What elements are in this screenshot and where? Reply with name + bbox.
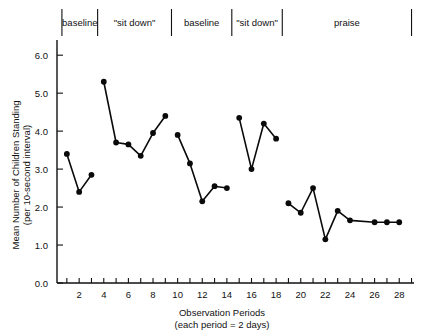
data-point <box>125 142 131 148</box>
data-point <box>138 153 144 159</box>
data-point <box>249 166 255 172</box>
data-point <box>322 236 328 242</box>
x-tick-label: 16 <box>246 289 257 300</box>
y-tick-label: 3.0 <box>35 164 48 175</box>
y-tick-label: 5.0 <box>35 88 48 99</box>
x-tick-label: 2 <box>77 289 82 300</box>
x-axis-subtitle: (each period = 2 days) <box>175 319 270 330</box>
series-points <box>64 79 402 242</box>
data-point <box>199 198 205 204</box>
chart-figure: Mean Number of Children Standing (per 10… <box>0 0 428 335</box>
x-tick-label: 12 <box>197 289 208 300</box>
x-tick-label: 4 <box>101 289 106 300</box>
data-point <box>89 172 95 178</box>
data-point <box>286 200 292 206</box>
data-point <box>187 161 193 167</box>
x-tick-label: 28 <box>394 289 405 300</box>
y-tick-label: 6.0 <box>35 50 48 61</box>
data-point <box>273 136 279 142</box>
x-tick-label: 26 <box>369 289 380 300</box>
x-tick-label: 10 <box>172 289 183 300</box>
x-tick-label: 22 <box>320 289 331 300</box>
y-tick-label: 1.0 <box>35 240 48 251</box>
y-axis-title-group: Mean Number of Children Standing (per 10… <box>10 101 32 250</box>
phase-labels: baseline"sit down"baseline"sit down"prai… <box>62 17 360 28</box>
data-point <box>298 210 304 216</box>
data-point <box>101 79 107 85</box>
x-tick-label: 14 <box>222 289 233 300</box>
x-axis-ticks <box>67 278 412 283</box>
data-point <box>175 132 181 138</box>
data-point <box>396 219 402 225</box>
data-point <box>212 183 218 189</box>
x-axis-tick-labels: 246810121416182022242628 <box>77 289 405 300</box>
x-tick-label: 20 <box>295 289 306 300</box>
x-tick-label: 8 <box>150 289 155 300</box>
series-line <box>104 82 166 156</box>
phase-label: baseline <box>62 17 97 28</box>
data-point <box>113 140 119 146</box>
data-point <box>162 113 168 119</box>
chart-canvas: Mean Number of Children Standing (per 10… <box>0 0 428 335</box>
x-tick-label: 6 <box>126 289 131 300</box>
y-tick-label: 2.0 <box>35 202 48 213</box>
data-point <box>335 208 341 214</box>
y-axis-tick-labels: 0.01.02.03.04.05.06.0 <box>35 50 48 289</box>
series-line <box>239 118 276 169</box>
y-tick-label: 0.0 <box>35 278 48 289</box>
phase-label: baseline <box>184 17 219 28</box>
data-point <box>76 189 82 195</box>
x-tick-label: 18 <box>271 289 282 300</box>
phase-label: "sit down" <box>114 17 156 28</box>
y-axis-subtitle: (per 10-second interval) <box>21 125 32 225</box>
series-line <box>178 135 227 201</box>
y-tick-label: 4.0 <box>35 126 48 137</box>
y-axis-ticks <box>57 55 63 283</box>
data-point <box>347 217 353 223</box>
data-point <box>236 115 242 121</box>
series-line <box>67 154 92 192</box>
x-tick-label: 24 <box>345 289 356 300</box>
data-point <box>64 151 70 157</box>
data-point <box>372 219 378 225</box>
data-point <box>384 219 390 225</box>
data-point <box>224 185 230 191</box>
y-axis-title: Mean Number of Children Standing <box>10 101 21 250</box>
phase-label: praise <box>334 17 360 28</box>
data-point <box>150 130 156 136</box>
series-line <box>288 188 399 239</box>
x-axis-title: Observation Periods <box>179 307 265 318</box>
series-lines <box>67 82 399 240</box>
data-point <box>310 185 316 191</box>
data-point <box>261 121 267 127</box>
phase-label: "sit down" <box>236 17 278 28</box>
